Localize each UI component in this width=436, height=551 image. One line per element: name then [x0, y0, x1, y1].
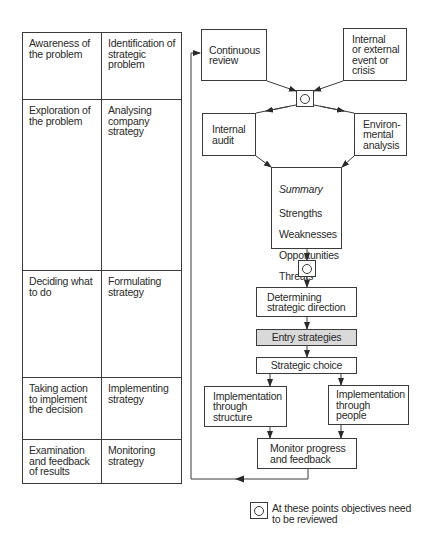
feedback-arrowhead-icon — [235, 476, 244, 483]
environmental-analysis-label: Environ- mental analysis — [363, 119, 401, 151]
review-checkpoint-1 — [296, 90, 314, 107]
internal-audit-label: Internal audit — [212, 124, 245, 145]
internal-external-event-label: Internal or external event or crisis — [352, 34, 399, 76]
circle-icon — [300, 94, 310, 104]
implementation-structure-box: Implementation through structure — [204, 386, 287, 427]
summary-item-weaknesses: Weaknesses — [279, 229, 341, 240]
swot-summary-box: Summary Strengths Weaknesses Opportuniti… — [271, 167, 342, 249]
internal-external-event-box: Internal or external event or crisis — [343, 28, 407, 81]
determining-direction-label: Determining strategic direction — [267, 292, 346, 313]
summary-item-opportunities: Opportunities — [279, 250, 341, 261]
implementation-people-label: Implementation through people — [336, 389, 405, 421]
legend-checkpoint-symbol — [250, 502, 268, 519]
determining-direction-box: Determining strategic direction — [256, 287, 357, 317]
monitor-progress-label: Monitor progress and feedback — [270, 443, 346, 464]
circle-icon — [302, 264, 312, 274]
summary-title: Summary — [279, 184, 341, 195]
implementation-people-box: Implementation through people — [328, 385, 409, 425]
entry-strategies-label: Entry strategies — [272, 332, 342, 343]
review-checkpoint-2 — [298, 260, 316, 277]
continuous-review-label: Continuous review — [209, 45, 260, 66]
legend-text: At these points objectives need to be re… — [272, 503, 436, 524]
internal-audit-box: Internal audit — [202, 113, 256, 156]
strategic-choice-label: Strategic choice — [271, 360, 343, 371]
summary-item-strengths: Strengths — [279, 208, 341, 219]
monitor-progress-box: Monitor progress and feedback — [257, 438, 357, 469]
implementation-structure-label: Implementation through structure — [213, 391, 282, 423]
continuous-review-box: Continuous review — [201, 29, 267, 81]
circle-icon — [254, 506, 264, 516]
strategic-choice-box: Strategic choice — [256, 357, 357, 374]
environmental-analysis-box: Environ- mental analysis — [354, 113, 407, 156]
entry-strategies-box: Entry strategies — [256, 329, 357, 346]
connector-lines — [0, 0, 436, 551]
